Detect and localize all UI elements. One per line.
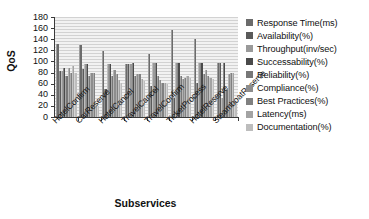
- y-axis-tick-label: 140: [33, 35, 48, 44]
- y-axis-tick-label: 100: [33, 57, 48, 66]
- legend-item[interactable]: Reliability(%): [246, 68, 368, 81]
- legend-label: Successability(%): [257, 57, 328, 67]
- legend-swatch-icon: [246, 71, 253, 78]
- y-axis-title: QoS: [5, 37, 17, 85]
- legend-swatch-icon: [246, 85, 253, 92]
- chart-legend: Response Time(ms)Availability(%)Throughp…: [246, 16, 368, 134]
- x-axis-title: Subservices: [54, 197, 237, 209]
- y-axis-tick-mark: [51, 28, 55, 29]
- legend-label: Best Practices(%): [257, 96, 328, 106]
- legend-label: Response Time(ms): [257, 18, 338, 28]
- legend-item[interactable]: Availability(%): [246, 29, 368, 42]
- legend-item[interactable]: Successability(%): [246, 55, 368, 68]
- y-axis-tick-label: 60: [38, 79, 48, 88]
- y-axis-tick-label: 160: [33, 24, 48, 33]
- y-axis-tick-mark: [51, 95, 55, 96]
- legend-item[interactable]: Documentation(%): [246, 121, 368, 134]
- x-axis-tick-mark: [238, 117, 239, 121]
- legend-label: Throughput(inv/sec): [257, 44, 337, 54]
- legend-swatch-icon: [246, 45, 253, 52]
- legend-label: Compliance(%): [257, 83, 319, 93]
- y-axis-tick-mark: [51, 39, 55, 40]
- y-axis-tick-labels: 180160140120100806040200: [22, 12, 48, 122]
- legend-label: Availability(%): [257, 31, 313, 41]
- legend-item[interactable]: Throughput(inv/sec): [246, 42, 368, 55]
- legend-swatch-icon: [246, 124, 253, 131]
- y-axis-tick-label: 40: [38, 90, 48, 99]
- y-axis-tick-mark: [51, 61, 55, 62]
- legend-swatch-icon: [246, 19, 253, 26]
- legend-label: Latency(ms): [257, 109, 306, 119]
- y-axis-tick-label: 0: [43, 113, 48, 122]
- y-axis-tick-label: 20: [38, 101, 48, 110]
- y-axis-tick-label: 80: [38, 68, 48, 77]
- y-axis-tick-mark: [51, 17, 55, 18]
- legend-swatch-icon: [246, 32, 253, 39]
- legend-item[interactable]: Response Time(ms): [246, 16, 368, 29]
- legend-label: Reliability(%): [257, 70, 309, 80]
- legend-item[interactable]: Latency(ms): [246, 108, 368, 121]
- legend-item[interactable]: Compliance(%): [246, 81, 368, 94]
- qos-bar-chart: QoS 180160140120100806040200 HotelConfir…: [0, 0, 369, 219]
- y-axis-tick-mark: [51, 73, 55, 74]
- legend-item[interactable]: Best Practices(%): [246, 95, 368, 108]
- y-axis-tick-mark: [51, 50, 55, 51]
- legend-swatch-icon: [246, 98, 253, 105]
- y-axis-tick-mark: [51, 84, 55, 85]
- legend-swatch-icon: [246, 58, 253, 65]
- y-axis-tick-label: 120: [33, 46, 48, 55]
- legend-swatch-icon: [246, 111, 253, 118]
- y-axis-tick-mark: [51, 106, 55, 107]
- legend-label: Documentation(%): [257, 122, 331, 132]
- y-axis-tick-label: 180: [33, 13, 48, 22]
